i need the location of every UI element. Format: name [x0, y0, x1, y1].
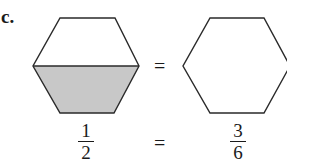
- fraction-one-half: 1 2: [76, 121, 96, 162]
- right-hexagon: [183, 18, 287, 113]
- denominator: 6: [228, 143, 248, 162]
- denominator: 2: [76, 143, 96, 162]
- left-hexagon-shaded-half: [33, 66, 139, 113]
- numerator: 1: [76, 121, 96, 140]
- numerator: 3: [228, 121, 248, 140]
- equals-sign-top: =: [154, 56, 165, 76]
- fraction-three-sixths: 3 6: [228, 121, 248, 162]
- equals-sign-bottom: =: [154, 133, 165, 153]
